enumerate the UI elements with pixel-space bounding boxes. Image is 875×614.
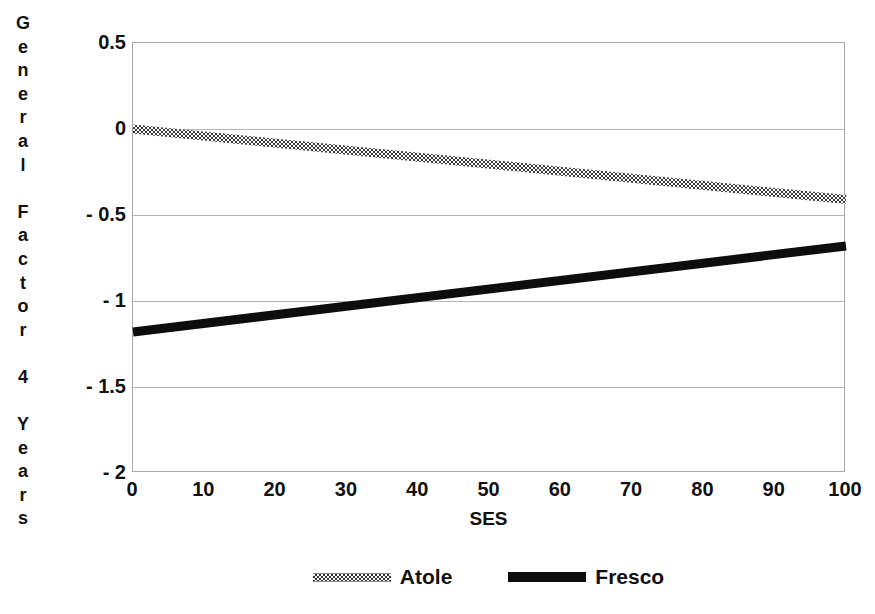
legend-label: Atole	[400, 565, 453, 589]
y-axis-title-char: c	[18, 248, 28, 272]
y-axis-title-char	[20, 342, 25, 366]
y-axis-title-char: 4	[18, 366, 28, 390]
x-tick-label: 70	[596, 478, 666, 501]
x-tick-label: 20	[240, 478, 310, 501]
x-axis-title: SES	[132, 508, 845, 530]
chart-legend: AtoleFresco	[132, 565, 845, 589]
y-axis-title-char	[20, 390, 25, 414]
y-axis-title-char: F	[18, 201, 29, 225]
series-layer	[133, 43, 846, 473]
solid-line-swatch	[508, 572, 586, 582]
y-axis-title-char: r	[19, 484, 26, 508]
y-axis-title-char	[20, 177, 25, 201]
plot-area	[132, 42, 845, 472]
legend-item-atole: Atole	[313, 565, 453, 589]
x-tick-label: 80	[667, 478, 737, 501]
y-axis-title-char: a	[18, 460, 28, 484]
y-axis-title-char: a	[18, 224, 28, 248]
y-axis-title-char: a	[18, 130, 28, 154]
y-axis-title-char: r	[19, 106, 26, 130]
legend-label: Fresco	[595, 565, 664, 589]
y-axis-title-char: G	[16, 12, 30, 36]
series-line-atole	[133, 129, 846, 200]
y-axis-title-char: l	[20, 154, 25, 178]
y-tick-label: - 1.5	[46, 375, 126, 398]
y-axis-tick-labels: 0.50- 0.5- 1- 1.5- 2	[42, 42, 126, 472]
y-tick-label: 0	[46, 117, 126, 140]
x-tick-label: 50	[454, 478, 524, 501]
legend-item-fresco: Fresco	[508, 565, 664, 589]
series-line-fresco	[133, 246, 846, 332]
y-axis-title-char: e	[18, 437, 28, 461]
x-axis-tick-labels: 0102030405060708090100	[132, 478, 845, 508]
y-axis-title-char: r	[19, 319, 26, 343]
y-axis-title-char: n	[18, 59, 29, 83]
x-tick-label: 60	[525, 478, 595, 501]
y-tick-label: - 1	[46, 289, 126, 312]
y-axis-title-char: e	[18, 36, 28, 60]
y-axis-title-char: e	[18, 83, 28, 107]
x-tick-label: 10	[168, 478, 238, 501]
y-axis-title-char: t	[20, 272, 26, 296]
y-axis-title-char: Y	[17, 413, 29, 437]
x-tick-label: 0	[97, 478, 167, 501]
x-tick-label: 100	[810, 478, 875, 501]
x-tick-label: 40	[382, 478, 452, 501]
y-axis-title-char: s	[18, 507, 28, 531]
y-axis-title-char: o	[18, 295, 29, 319]
dithered-line-swatch	[313, 573, 391, 582]
y-tick-label: 0.5	[46, 31, 126, 54]
x-tick-label: 30	[311, 478, 381, 501]
y-axis-title: General Factor 4 Years	[6, 12, 40, 490]
y-tick-label: - 0.5	[46, 203, 126, 226]
x-tick-label: 90	[739, 478, 809, 501]
